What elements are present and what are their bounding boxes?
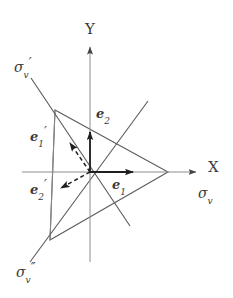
e2-subscript: 2	[104, 116, 110, 126]
sigma-v-subscript: v	[208, 196, 213, 206]
sigma-v-prime-subscript: v	[24, 70, 29, 80]
sigma-v-prime-axis-line	[31, 78, 130, 226]
e1-prime-vector-arrow	[70, 143, 90, 172]
sigma-v-base: σ	[198, 185, 208, 201]
e2-prime-primes: ′	[44, 177, 47, 192]
x-axis-label: X	[208, 160, 219, 175]
e1-subscript: 1	[120, 187, 126, 197]
e1-vector-label: e1	[112, 178, 126, 195]
sigma-v-label: σv	[198, 186, 213, 204]
e2-vector-label: e2	[96, 107, 110, 124]
sigma-v-double-prime-primes: ″	[31, 260, 36, 275]
sigma-v-prime-primes: ′	[29, 55, 32, 70]
e1-prime-vector-label: e1′	[30, 130, 47, 147]
e1-prime-subscript: 1	[38, 139, 44, 149]
y-axis-label: Y	[85, 22, 95, 37]
diagram-canvas	[0, 0, 233, 298]
sigma-v-double-prime-subscript: v	[26, 275, 31, 285]
yield-surface-triangle	[50, 110, 168, 240]
vector-diagram-figure: X Y σv σv′ σv″ e1 e2 e1′ e2′	[0, 0, 233, 298]
sigma-v-prime-label: σv′	[14, 60, 32, 78]
e2-prime-subscript: 2	[38, 192, 44, 202]
left-vertical-chord	[50, 110, 55, 240]
sigma-v-prime-base: σ	[14, 59, 24, 75]
sigma-v-double-prime-label: σv″	[16, 265, 36, 283]
sigma-v-double-prime-axis-line	[30, 101, 148, 262]
e2-prime-vector-label: e2′	[30, 183, 47, 200]
e1-prime-primes: ′	[44, 124, 47, 139]
sigma-v-double-prime-base: σ	[16, 264, 26, 280]
